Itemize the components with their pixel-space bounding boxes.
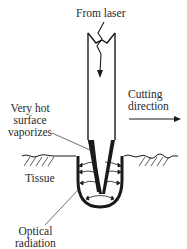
laser-fiber [88,33,115,140]
cutting-line2: direction [128,100,169,112]
laser-beam-arrow [97,22,104,78]
very-hot-surface-label: Very hot surface vaporizes [8,102,52,138]
optical-line1: Optical [15,225,56,237]
hot-tip [88,140,115,194]
optical-line2: radiation [15,237,56,249]
tissue-surface [22,154,178,158]
cutting-line1: Cutting [128,88,169,100]
from-laser-label: From laser [76,7,126,19]
optical-radiation-label: Optical radiation [15,225,56,249]
very-hot-line1: Very hot [8,102,52,114]
very-hot-line2: surface [8,114,52,126]
radiation-arrows [79,162,121,200]
cutting-direction-arrow [129,116,181,122]
very-hot-line3: vaporizes [8,126,52,138]
cutting-direction-label: Cutting direction [128,88,169,112]
tissue-label: Tissue [25,172,55,184]
